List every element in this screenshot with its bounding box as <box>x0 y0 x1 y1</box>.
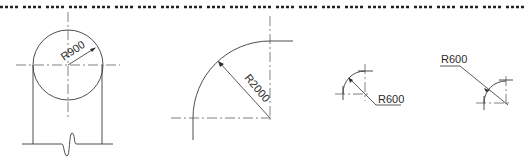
quarter-arc-small-right-figure: R600 <box>440 53 513 110</box>
arrowhead-icon <box>90 48 96 53</box>
cad-drawing: R900 R2000 R600 R600 <box>0 0 527 165</box>
arrowhead-icon <box>349 78 354 84</box>
radius-leader <box>440 66 508 105</box>
break-line <box>22 133 113 156</box>
dimension-label-r900: R900 <box>58 38 87 63</box>
arc <box>484 81 506 103</box>
dimension-label-r600-left: R600 <box>378 93 404 105</box>
quarter-arc-large-figure: R2000 <box>171 16 293 140</box>
dimension-label-r2000: R2000 <box>242 72 272 105</box>
dimension-label-r600-right: R600 <box>441 53 467 65</box>
circle-column-figure: R900 <box>16 12 120 156</box>
arc <box>193 41 293 140</box>
quarter-arc-small-left-figure: R600 <box>335 64 404 105</box>
